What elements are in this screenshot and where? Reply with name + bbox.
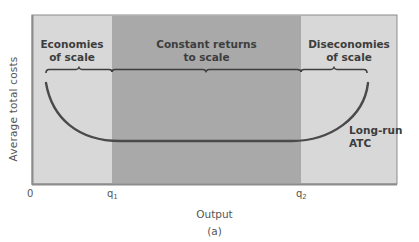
- label-economies-of-scale: Economies of scale: [32, 38, 112, 64]
- y-axis-label: Average total costs: [3, 99, 23, 119]
- label-diseconomies-line2: of scale: [299, 51, 399, 64]
- label-economies-line2: of scale: [32, 51, 112, 64]
- y-axis-label-text: Average total costs: [7, 57, 19, 162]
- chart-svg: [0, 0, 419, 242]
- tick-q1: q1: [107, 188, 118, 201]
- label-constant-line1: Constant returns: [112, 38, 301, 51]
- label-atc-line2: ATC: [349, 137, 402, 150]
- tick-q2-sub: 2: [302, 193, 306, 201]
- label-atc-line1: Long-run: [349, 124, 402, 137]
- label-constant-returns: Constant returns to scale: [112, 38, 301, 64]
- label-diseconomies-of-scale: Diseconomies of scale: [299, 38, 399, 64]
- label-long-run-atc: Long-run ATC: [349, 124, 402, 150]
- tick-q2: q2: [296, 188, 307, 201]
- label-economies-line1: Economies: [32, 38, 112, 51]
- x-axis-label: Output: [32, 208, 397, 220]
- tick-q1-sub: 1: [113, 193, 117, 201]
- figure-caption: (a): [32, 225, 397, 237]
- figure: Average total costs Economies of scale C…: [0, 0, 419, 242]
- tick-origin: 0: [27, 188, 33, 199]
- label-diseconomies-line1: Diseconomies: [299, 38, 399, 51]
- label-constant-line2: to scale: [112, 51, 301, 64]
